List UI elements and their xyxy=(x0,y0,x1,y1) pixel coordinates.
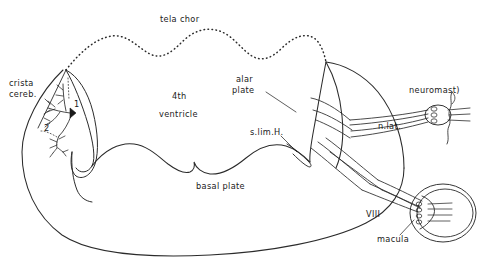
otic-vesicle-inner-wall xyxy=(417,189,473,237)
neuromast-hair-cells xyxy=(431,107,437,123)
lateral-line-root-fibers xyxy=(311,98,352,138)
otic-vesicle-outer-wall xyxy=(410,184,476,242)
label-s-lim-h: s.lim.H. xyxy=(250,127,283,138)
label-marker-one: 1 xyxy=(74,99,80,110)
label-macula: macula xyxy=(377,234,409,245)
neuromast-body xyxy=(425,105,451,125)
neuron-two-axon xyxy=(59,116,71,136)
alar-plate-leader-line xyxy=(266,92,296,112)
label-alar-plate-line1: alar xyxy=(236,74,253,85)
tela-choroidea-dotted-line xyxy=(66,29,326,70)
nerve-viii-trunk xyxy=(362,180,422,212)
label-neuromast: neuromast) xyxy=(409,85,460,96)
label-ventricle: ventricle xyxy=(159,109,198,120)
alar-plate-inner-fold xyxy=(310,62,326,162)
label-alar-plate-line2: plate xyxy=(232,85,255,96)
label-marker-two: 2 xyxy=(44,123,50,134)
crista-cerebellaris-fold xyxy=(66,70,94,172)
otic-vesicle xyxy=(410,184,476,242)
label-crista-cereb-line1: crista xyxy=(9,78,34,89)
diagram-illustration xyxy=(0,0,484,262)
octaval-root-fibers xyxy=(311,138,382,190)
brain-right-lobe-outline xyxy=(326,62,404,168)
neuron-two-terminal-tuft xyxy=(50,150,68,157)
basal-plate-floor xyxy=(92,144,310,174)
alar-plate-outer-wall xyxy=(326,62,343,168)
figure-canvas: tela chor crista cereb. 1 2 4th ventricl… xyxy=(0,0,484,262)
label-fourth: 4th xyxy=(172,91,187,102)
neuron-one-guide-dotted xyxy=(68,78,69,100)
crista-wedge-diagonal xyxy=(38,70,66,128)
label-basal-plate: basal plate xyxy=(196,181,245,192)
crista-fold-tail xyxy=(72,152,92,202)
label-crista-cereb-line2: cereb. xyxy=(9,89,37,100)
label-nerve-viii: VIII xyxy=(366,209,380,220)
neuron-one-ascending-dendrite xyxy=(63,84,66,111)
neuromast-organ xyxy=(425,92,470,144)
macula-leader-line xyxy=(400,220,414,235)
neuromast-efferent-fibers xyxy=(448,108,470,121)
crista-inner-wall xyxy=(66,70,97,178)
neuromast-epithelium-contour xyxy=(447,92,452,144)
label-tela-chor: tela chor xyxy=(160,14,199,25)
s-lim-h-leader-line xyxy=(281,136,297,152)
label-n-lat: n.lat. xyxy=(378,121,401,132)
